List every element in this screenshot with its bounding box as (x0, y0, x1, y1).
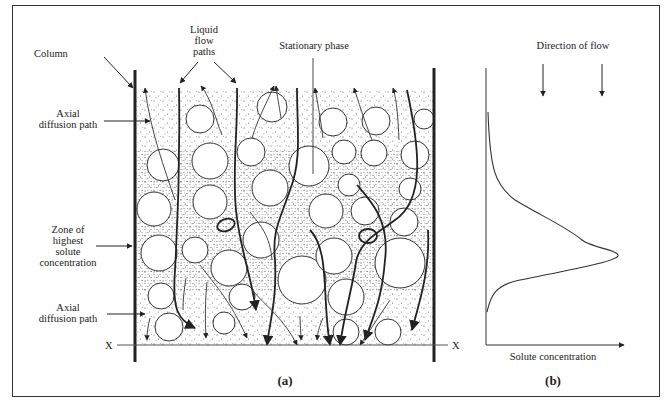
axial-bottom-label-1: Axial (56, 302, 79, 313)
direction-of-flow-label: Direction of flow (537, 40, 610, 51)
zone-label-1: Zone of (52, 224, 85, 235)
column-label: Column (34, 48, 69, 59)
liquid-flow-label-3: paths (193, 46, 215, 57)
zone-label-3: solute (55, 246, 80, 257)
column-panel: X X Column Liquid flow paths Stationary … (34, 24, 460, 388)
x-axis-label: Solute concentration (510, 351, 597, 362)
caption-b: (b) (545, 373, 561, 388)
x-left-label: X (105, 340, 113, 351)
column-leader (104, 57, 133, 88)
axial-bottom-label-2: diffusion path (39, 313, 98, 324)
zone-label-2: highest (53, 235, 83, 246)
concentration-curve (487, 112, 618, 312)
axial-top-label-2: diffusion path (39, 119, 98, 130)
stationary-phase-label: Stationary phase (279, 40, 349, 51)
axial-top-label-1: Axial (56, 108, 79, 119)
liquid-flow-label-2: flow (194, 35, 214, 46)
liquid-flow-label-1: Liquid (190, 24, 219, 35)
zone-label-4: concentration (39, 257, 97, 268)
caption-a: (a) (277, 373, 292, 388)
chromatography-diagram: X X Column Liquid flow paths Stationary … (0, 0, 666, 409)
concentration-profile-panel: Direction of flow Solute concentration (… (486, 40, 624, 388)
x-right-label: X (452, 340, 460, 351)
